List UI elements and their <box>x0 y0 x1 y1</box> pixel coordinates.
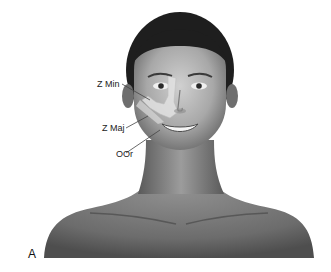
anatomy-figure: Z Min Z Maj OOr A <box>0 0 331 272</box>
panel-label: A <box>28 248 36 260</box>
label-z-maj: Z Maj <box>102 124 125 133</box>
label-oor: OOr <box>116 150 133 159</box>
ear-right <box>226 84 238 108</box>
portrait-illustration <box>0 0 331 272</box>
label-z-min: Z Min <box>97 80 120 89</box>
